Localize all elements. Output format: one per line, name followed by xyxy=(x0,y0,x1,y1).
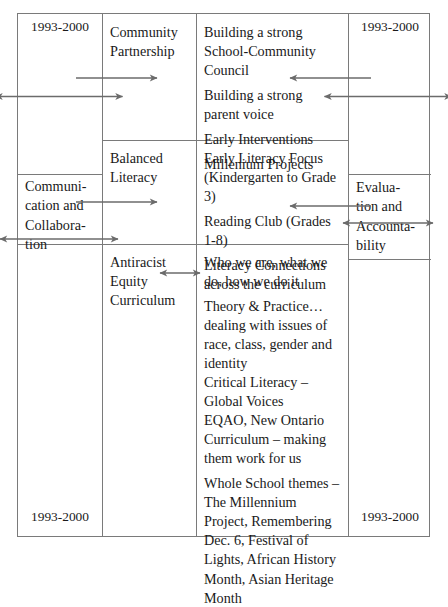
list-item: Who we are, what we do, how we do it xyxy=(204,253,341,291)
right-side-label-line-4: bility xyxy=(356,236,431,255)
framework-table: 1993-2000 Communi- cation and Collabora-… xyxy=(17,13,430,537)
theme-line: Antiracist xyxy=(110,253,189,272)
right-year-top: 1993-2000 xyxy=(349,18,431,36)
list-item: Building a strong parent voice xyxy=(204,86,341,124)
right-col-rule-1 xyxy=(348,174,431,175)
left-side-label: Communi- cation and Collabora- tion xyxy=(18,177,102,254)
list-item: Critical Literacy – Global Voices xyxy=(204,373,341,411)
theme-line: Community xyxy=(110,23,189,42)
left-side-label-line-2: cation and xyxy=(25,196,102,215)
left-side-label-line-4: tion xyxy=(25,235,102,254)
theme-line: Literacy xyxy=(110,168,189,187)
list-item: EQAO, New Ontario Curriculum – making th… xyxy=(204,411,341,468)
left-side-label-line-3: Collabora- xyxy=(25,216,102,235)
right-side-label-line-2: tion and xyxy=(356,197,431,216)
right-side-label-line-3: Accounta- xyxy=(356,217,431,236)
theme-label-balanced-literacy: Balanced Literacy xyxy=(103,144,196,187)
left-year-top: 1993-2000 xyxy=(18,18,102,36)
list-item: Reading Club (Grades 1-8) xyxy=(204,212,341,250)
list-item: Building a strong School-Community Counc… xyxy=(204,23,341,80)
right-year-bottom: 1993-2000 xyxy=(349,508,431,526)
list-item: Whole School themes – The Millennium Pro… xyxy=(204,474,341,607)
right-side-label-line-1: Evalua- xyxy=(356,178,431,197)
theme-line: Curriculum xyxy=(110,291,189,310)
table-vertical-rule-3 xyxy=(348,14,349,536)
theme-label-community-partnership: Community Partnership xyxy=(103,18,196,61)
list-item: Theory & Practice… dealing with issues o… xyxy=(204,297,341,373)
theme-line: Balanced xyxy=(110,149,189,168)
right-col-rule-2 xyxy=(348,259,431,260)
left-col-rule-1 xyxy=(18,174,103,175)
left-side-label-line-1: Communi- xyxy=(25,177,102,196)
list-item: Early Literacy Focus (Kindergarten to Gr… xyxy=(204,149,341,206)
left-year-bottom: 1993-2000 xyxy=(18,508,102,526)
theme-label-antiracist-equity-curriculum: Antiracist Equity Curriculum xyxy=(103,248,196,310)
right-side-label: Evalua- tion and Accounta- bility xyxy=(349,178,431,255)
theme-line: Partnership xyxy=(110,42,189,61)
theme-line: Equity xyxy=(110,272,189,291)
content-antiracist-equity-curriculum: Who we are, what we do, how we do it The… xyxy=(197,248,348,607)
